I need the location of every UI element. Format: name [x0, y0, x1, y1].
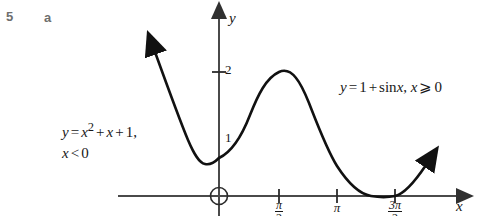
y-axis-label: y [229, 10, 236, 27]
x-axis-label: x [456, 198, 463, 215]
eq-plus-2: + [113, 124, 125, 140]
domain-relation: < [69, 145, 81, 161]
eq-var-y: y [62, 124, 69, 140]
figure-page: 5 a y x 2 1 π [0, 0, 500, 216]
x-tick-label-pi-over-2: π 2 [275, 199, 283, 216]
parabola-curve [155, 52, 219, 164]
sine-equation-label: y=1+sinx, x⩾0 [340, 78, 442, 96]
eq-plus-1: + [94, 124, 106, 140]
y-tick-label-2: 2 [225, 62, 232, 78]
eq-var-x: x [81, 124, 88, 140]
x-tick-label-3pi-over-2: 3π 2 [388, 199, 402, 216]
sine-domain-relation: ⩾ [417, 79, 434, 95]
sine-eq-equals: = [347, 79, 359, 95]
sine-eq-constant: 1 [359, 79, 367, 95]
fraction-3pi-over-2: 3π 2 [388, 199, 402, 216]
sine-eq-plus: + [367, 79, 379, 95]
eq-equals: = [69, 124, 81, 140]
fraction-denominator: 2 [275, 212, 283, 216]
domain-value: 0 [81, 145, 89, 161]
sine-domain-value: 0 [434, 79, 442, 95]
parabola-domain-label: x<0 [62, 145, 89, 162]
graph-canvas [0, 0, 500, 216]
y-tick-label-1: 1 [225, 130, 232, 146]
fraction-pi-over-2: π 2 [275, 199, 283, 216]
sine-eq-var-y: y [340, 79, 347, 95]
fraction-denominator: 2 [388, 212, 402, 216]
sine-function-name: sin [379, 79, 397, 95]
sine-eq-comma: , [403, 79, 407, 95]
x-tick-label-pi: π [334, 200, 341, 216]
eq-constant: 1, [126, 124, 137, 140]
parabola-equation-label: y=x2+x+1, [62, 120, 137, 141]
domain-var-x: x [62, 145, 69, 161]
